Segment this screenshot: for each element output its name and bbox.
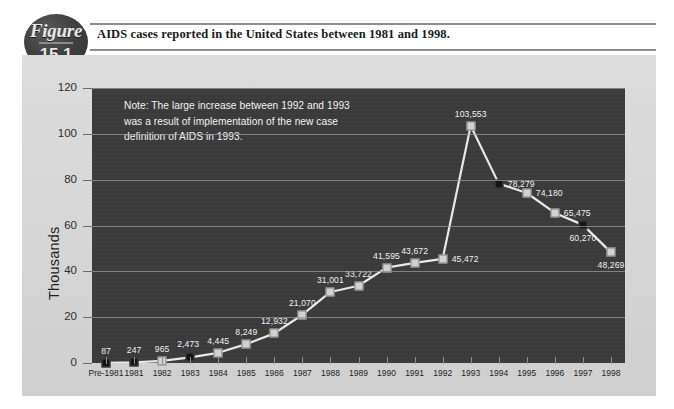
y-tick-mark xyxy=(83,363,92,364)
y-tick-mark xyxy=(83,317,92,318)
data-marker xyxy=(606,248,615,257)
y-tick-mark xyxy=(83,271,92,272)
x-tick-label: 1994 xyxy=(489,368,508,378)
data-point-label: 31,001 xyxy=(317,275,344,285)
data-point-label: 60,270 xyxy=(569,233,596,243)
caption-rule-bottom xyxy=(90,49,656,51)
x-tick-label: 1993 xyxy=(461,368,480,378)
gridline xyxy=(92,180,625,181)
data-marker xyxy=(326,287,335,296)
data-marker xyxy=(270,329,279,338)
y-tick-mark xyxy=(83,226,92,227)
x-tick-label: 1988 xyxy=(321,368,340,378)
y-tick-label: 80 xyxy=(35,173,77,185)
x-tick-mark xyxy=(330,357,331,364)
data-point-label: 65,475 xyxy=(564,208,591,218)
gridline xyxy=(92,88,625,89)
x-tick-mark xyxy=(246,357,247,364)
x-tick-label: 1981 xyxy=(125,368,144,378)
data-point-label: 41,595 xyxy=(373,251,400,261)
data-marker xyxy=(410,258,419,267)
y-axis-title: Thousands xyxy=(46,226,62,300)
caption-rule-top xyxy=(90,23,656,25)
x-tick-mark xyxy=(387,357,388,364)
x-tick-label: 1991 xyxy=(405,368,424,378)
x-tick-label: 1982 xyxy=(153,368,172,378)
x-tick-label: 1992 xyxy=(433,368,452,378)
data-point-label: 247 xyxy=(127,345,142,355)
x-tick-mark xyxy=(302,357,303,364)
figure-word: Figure xyxy=(30,21,82,40)
gridline xyxy=(92,271,625,272)
data-marker xyxy=(214,348,223,357)
data-point-label: 74,180 xyxy=(536,188,563,198)
x-tick-mark xyxy=(527,357,528,364)
figure-page: Figure 15.1 AIDS cases reported in the U… xyxy=(0,0,674,409)
x-tick-mark xyxy=(359,357,360,364)
x-tick-mark xyxy=(499,357,500,364)
data-point-label: 103,553 xyxy=(455,109,487,119)
data-marker xyxy=(438,254,447,263)
data-point-label: 2,473 xyxy=(177,339,199,349)
y-tick-mark xyxy=(83,134,92,135)
x-tick-label: 1998 xyxy=(602,368,621,378)
x-tick-mark xyxy=(106,357,107,364)
y-tick-label: 120 xyxy=(35,81,77,93)
x-tick-label: 1986 xyxy=(265,368,284,378)
data-marker xyxy=(354,281,363,290)
data-point-label: 4,445 xyxy=(207,336,229,346)
y-tick-label: 0 xyxy=(35,356,77,368)
x-tick-label: 1985 xyxy=(237,368,256,378)
data-point-label: 965 xyxy=(155,344,170,354)
y-tick-mark xyxy=(83,88,92,89)
data-point-label: 87 xyxy=(101,346,111,356)
x-tick-mark xyxy=(555,357,556,364)
x-tick-label: 1983 xyxy=(181,368,200,378)
x-tick-label: 1987 xyxy=(293,368,312,378)
data-point-label: 21,070 xyxy=(289,298,316,308)
x-tick-mark xyxy=(162,357,163,364)
data-marker xyxy=(522,189,531,198)
data-point-label: 8,249 xyxy=(235,327,257,337)
x-tick-mark xyxy=(190,357,191,364)
data-point-label: 48,269 xyxy=(598,260,625,270)
gridline xyxy=(92,226,625,227)
x-tick-mark xyxy=(443,357,444,364)
x-tick-label: 1996 xyxy=(545,368,564,378)
data-marker xyxy=(550,208,559,217)
data-point-label: 33,722 xyxy=(345,269,372,279)
x-tick-label: 1990 xyxy=(377,368,396,378)
x-tick-label: 1989 xyxy=(349,368,368,378)
data-marker xyxy=(242,340,251,349)
y-tick-label: 100 xyxy=(35,127,77,139)
x-tick-mark xyxy=(471,357,472,364)
x-tick-label: Pre-1981 xyxy=(89,368,124,378)
y-tick-mark xyxy=(83,180,92,181)
x-tick-mark xyxy=(218,357,219,364)
y-tick-label: 20 xyxy=(35,310,77,322)
x-tick-label: 1997 xyxy=(573,368,592,378)
data-point-label: 45,472 xyxy=(452,254,479,264)
x-tick-mark xyxy=(415,357,416,364)
gridline xyxy=(92,134,625,135)
figure-header: Figure 15.1 AIDS cases reported in the U… xyxy=(0,0,674,62)
x-tick-label: 1984 xyxy=(209,368,228,378)
data-point-label: 43,672 xyxy=(401,246,428,256)
x-tick-mark xyxy=(274,357,275,364)
x-tick-mark xyxy=(611,357,612,364)
figure-caption: AIDS cases reported in the United States… xyxy=(97,27,647,42)
x-tick-label: 1995 xyxy=(517,368,536,378)
x-tick-mark xyxy=(134,357,135,364)
plot-area: Note: The large increase between 1992 an… xyxy=(92,88,625,363)
badge-divider xyxy=(39,42,73,44)
data-marker xyxy=(466,121,475,130)
gridline xyxy=(92,317,625,318)
x-tick-mark xyxy=(583,357,584,364)
